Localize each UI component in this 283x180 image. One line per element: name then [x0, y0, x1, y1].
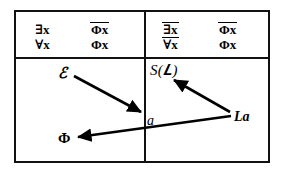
node-s-of-x: S(𝑳) — [150, 63, 178, 78]
header-cell-left: ∃x ∀x Φx Φx — [16, 12, 144, 57]
header-right-quantifier-column: ∃x ∀x — [162, 22, 179, 52]
formula-phi-x: Φx — [90, 37, 109, 52]
figure-canvas: ∃x ∀x Φx Φx ∃x ∀ — [0, 0, 283, 180]
header-cell-right: ∃x ∀x Φx Φx — [146, 12, 270, 57]
formula-negated-row: Φx — [218, 22, 237, 37]
formula-phi-x: Φx — [218, 37, 237, 52]
header-left-quantifier-column: ∃x ∀x — [34, 22, 51, 52]
header-left-formula-column: Φx Φx — [90, 22, 109, 52]
quantifier-forall-negated-row: ∀x — [162, 37, 179, 52]
node-la: La — [234, 110, 250, 124]
quantifier-forall-overlined: ∀x — [162, 37, 179, 52]
header-right-formula-column: Φx Φx — [218, 22, 237, 52]
quantifier-forall: ∀x — [34, 37, 51, 52]
quantifier-exists-negated-row: ∃x — [162, 22, 179, 37]
body-cell-left — [16, 59, 144, 161]
node-a: a — [147, 114, 154, 128]
formula-negated-row: Φx — [90, 22, 109, 37]
node-phi: Φ — [58, 131, 70, 146]
quantifier-exists-overlined: ∃x — [162, 22, 179, 38]
node-script-s: ℰ — [58, 66, 67, 81]
quantifier-exists-row: ∃x — [34, 22, 51, 37]
formula-plain-row: Φx — [90, 37, 109, 52]
quantifier-forall-row: ∀x — [34, 37, 51, 52]
formula-phi-x-overlined: Φx — [90, 22, 109, 37]
formula-phi-x-overlined: Φx — [218, 22, 237, 37]
quantifier-exists: ∃x — [34, 22, 51, 37]
table-frame: ∃x ∀x Φx Φx ∃x ∀ — [14, 10, 270, 163]
formula-plain-row: Φx — [218, 37, 237, 52]
